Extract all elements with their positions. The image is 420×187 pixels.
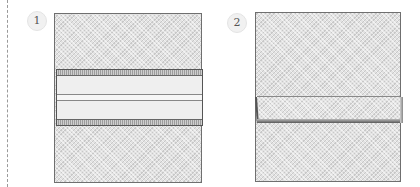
fold-shadow (257, 119, 400, 123)
band-bottom-strip (57, 119, 202, 125)
band-center-crease (57, 94, 202, 101)
step-number: 2 (234, 16, 241, 29)
step-number: 1 (34, 14, 41, 27)
band-top-strip (57, 70, 202, 76)
step-number-badge: 1 (27, 11, 47, 31)
fold-right-edge (400, 97, 403, 123)
dashed-divider (7, 0, 8, 187)
step-1-folded-band (56, 69, 203, 126)
step-number-badge: 2 (227, 13, 247, 33)
step-2-fold-flap (257, 96, 400, 123)
